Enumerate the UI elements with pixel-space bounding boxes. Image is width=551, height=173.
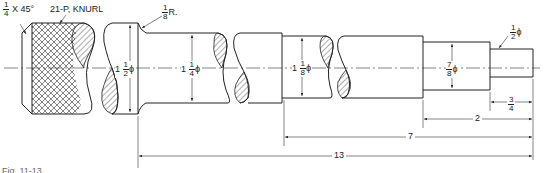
length-label-middle: 7	[406, 132, 415, 141]
fillet-callout: 18R.	[162, 4, 177, 21]
length-label-end: 34	[507, 96, 515, 113]
diameter-label-2: 1 14ϕ	[181, 61, 200, 78]
diameter-label-1: 1 12ϕ	[115, 61, 134, 78]
knurl-leader	[60, 15, 66, 23]
diameter-label-4: 78ϕ	[446, 61, 458, 78]
length-label-step: 2	[473, 114, 482, 123]
fillet-leader	[142, 16, 162, 28]
shaft-drawing	[0, 0, 551, 173]
knurl-callout: 21-P, KNURL	[50, 5, 103, 14]
end-diameter-leader	[499, 36, 508, 48]
diameter-label-5: 12ϕ	[510, 24, 522, 41]
figure-caption: Fig. 11-13	[2, 166, 42, 173]
diameter-label-3: 1 18ϕ	[292, 60, 311, 77]
chamfer-callout: 14 X 45°	[3, 1, 34, 18]
length-label-overall: 13	[332, 151, 346, 160]
knurled-section	[22, 23, 95, 114]
shaft-end-section	[490, 49, 533, 77]
